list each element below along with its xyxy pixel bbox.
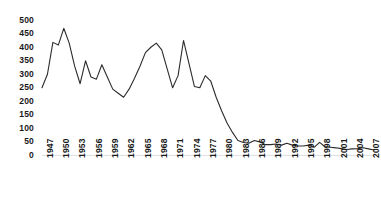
x-tick-label-1983: 1983	[242, 138, 251, 158]
x-tick-label-1959: 1959	[111, 138, 120, 158]
x-tick-label-1989: 1989	[274, 138, 283, 158]
y-tick-label-250: 250	[4, 83, 34, 92]
x-tick-label-1953: 1953	[78, 138, 87, 158]
x-tick-label-1956: 1956	[95, 138, 104, 158]
y-tick-label-0: 0	[4, 151, 34, 160]
x-tick-label-2007: 2007	[372, 138, 381, 158]
y-tick-label-150: 150	[4, 110, 34, 119]
x-tick-label-1971: 1971	[176, 138, 185, 158]
x-tick-label-1974: 1974	[193, 138, 202, 158]
y-tick-label-200: 200	[4, 97, 34, 106]
x-tick-label-1962: 1962	[127, 138, 136, 158]
y-tick-label-300: 300	[4, 70, 34, 79]
x-tick-label-1950: 1950	[62, 138, 71, 158]
x-tick-label-1986: 1986	[258, 138, 267, 158]
x-tick-label-1968: 1968	[160, 138, 169, 158]
data-series-line	[42, 28, 374, 150]
x-tick-label-1947: 1947	[46, 138, 55, 158]
x-tick-label-1965: 1965	[144, 138, 153, 158]
y-tick-label-350: 350	[4, 56, 34, 65]
x-tick-label-1980: 1980	[225, 138, 234, 158]
y-tick-label-50: 50	[4, 137, 34, 146]
y-tick-label-500: 500	[4, 16, 34, 25]
y-tick-label-400: 400	[4, 43, 34, 52]
x-tick-label-1998: 1998	[323, 138, 332, 158]
x-tick-label-2001: 2001	[340, 138, 349, 158]
y-tick-label-100: 100	[4, 124, 34, 133]
x-tick-label-2004: 2004	[356, 138, 365, 158]
x-tick-label-1995: 1995	[307, 138, 316, 158]
x-tick-label-1992: 1992	[291, 138, 300, 158]
y-tick-label-450: 450	[4, 29, 34, 38]
x-tick-label-1977: 1977	[209, 138, 218, 158]
